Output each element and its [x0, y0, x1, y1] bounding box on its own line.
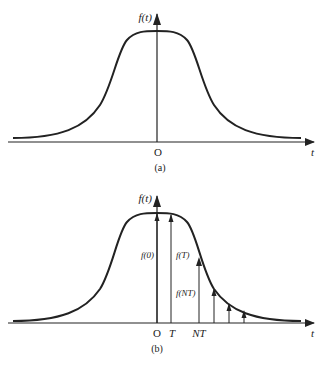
impulse-label-fT: f(T): [176, 250, 190, 260]
caption-a: (a): [154, 162, 165, 174]
impulse-arrow-icon: [169, 214, 174, 222]
x-label: t: [311, 327, 315, 339]
impulse-label-f0: f(0): [141, 250, 154, 260]
panel-b: f(t) t O T NT f(0) f(T) f(NT) (b): [8, 192, 315, 355]
tick-O: O: [153, 327, 161, 339]
y-label: f(t): [139, 192, 153, 205]
arrow-up-icon: [153, 13, 161, 25]
impulse-arrow-icon: [155, 213, 160, 221]
caption-b: (b): [151, 343, 163, 355]
panel-a: f(t) t O (a): [8, 11, 315, 174]
tick-T: T: [169, 327, 176, 339]
impulse-label-fNT: f(NT): [176, 288, 196, 298]
arrow-up-icon: [153, 195, 161, 207]
diagram-canvas: f(t) t O (a) f(t) t O T NT f(0) f(T) f(N…: [0, 0, 326, 370]
y-label: f(t): [139, 11, 153, 24]
origin-label: O: [154, 146, 162, 158]
tick-NT: NT: [191, 327, 206, 339]
x-label: t: [311, 146, 315, 158]
